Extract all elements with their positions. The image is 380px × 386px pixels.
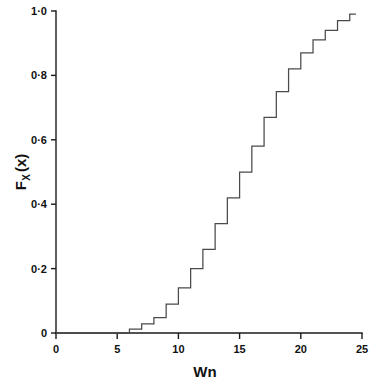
y-tick-label: 0·4 bbox=[31, 198, 48, 210]
x-tick-label: 15 bbox=[233, 343, 245, 355]
x-tick-label: 5 bbox=[114, 343, 120, 355]
ecdf-step-curve bbox=[56, 14, 356, 333]
ecdf-plot: 00·20·40·60·81·0 0510152025 Wn FX(x) bbox=[0, 0, 380, 386]
chart-figure: 00·20·40·60·81·0 0510152025 Wn FX(x) bbox=[0, 0, 380, 386]
y-tick-label: 0·6 bbox=[31, 134, 47, 146]
vertical-axis-ticks bbox=[51, 11, 56, 333]
horizontal-axis-ticks bbox=[56, 333, 362, 339]
x-axis-title: Wn bbox=[193, 363, 216, 380]
vertical-axis-tick-labels: 00·20·40·60·81·0 bbox=[31, 5, 48, 339]
y-axis-title: FX(x) bbox=[12, 154, 32, 191]
y-axis-title-argument: (x) bbox=[12, 154, 29, 172]
y-tick-label: 1·0 bbox=[31, 5, 47, 17]
x-tick-label: 0 bbox=[53, 343, 59, 355]
y-axis-title-text: FX(x) bbox=[12, 154, 32, 191]
y-tick-label: 0·8 bbox=[31, 69, 47, 81]
x-tick-label: 10 bbox=[172, 343, 184, 355]
y-axis-title-main: F bbox=[12, 181, 29, 190]
y-tick-label: 0·2 bbox=[31, 263, 47, 275]
horizontal-axis-tick-labels: 0510152025 bbox=[53, 343, 368, 355]
y-tick-label: 0 bbox=[41, 327, 47, 339]
x-tick-label: 25 bbox=[356, 343, 368, 355]
x-tick-label: 20 bbox=[295, 343, 307, 355]
y-axis-title-subscript: X bbox=[21, 174, 32, 181]
